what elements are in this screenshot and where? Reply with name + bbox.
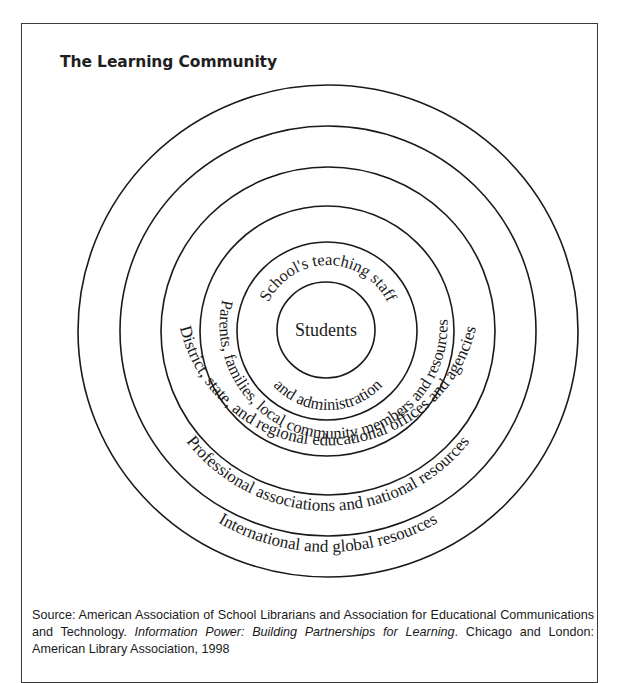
center-label: Students (295, 320, 357, 340)
ring-1-label-bottom: and administration (270, 375, 385, 414)
source-book-title: Information Power: Building Partnerships… (135, 625, 455, 639)
ring-5-label: International and global resources (216, 509, 440, 556)
source-citation: Source: American Association of School L… (32, 607, 594, 658)
